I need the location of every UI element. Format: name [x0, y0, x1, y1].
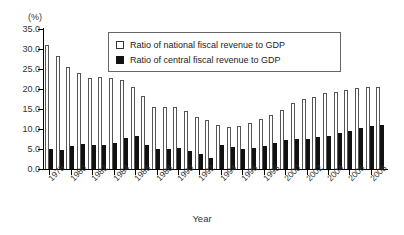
y-axis-unit-label: (%) [28, 12, 42, 22]
bar-central-1988 [156, 149, 160, 169]
bar-central-1994 [220, 145, 224, 169]
bar-central-1990 [177, 148, 181, 169]
hollow-square-icon [116, 41, 124, 49]
bar-group-1982 [88, 29, 99, 169]
bar-central-2000 [284, 140, 288, 169]
legend-item-national: Ratio of national fiscal revenue to GDP [116, 37, 334, 52]
bar-central-1982 [92, 145, 96, 169]
bar-central-2004 [327, 136, 331, 169]
y-axis-tick-mark [38, 109, 43, 110]
bar-central-1978 [49, 149, 53, 169]
y-axis-tick-mark [38, 149, 43, 150]
bar-central-1980 [70, 146, 74, 169]
filled-square-icon [116, 56, 124, 64]
bar-group-2006 [344, 29, 355, 169]
bar-group-2007 [355, 29, 366, 169]
bar-group-2009 [376, 29, 387, 169]
x-axis-ticks: 1978198019821984198619881990199219941996… [44, 170, 387, 176]
bar-group-2008 [366, 29, 377, 169]
bar-central-1996 [241, 149, 245, 169]
bar-central-2008 [370, 126, 374, 169]
y-axis-tick-mark [38, 49, 43, 50]
legend-label-national: Ratio of national fiscal revenue to GDP [130, 40, 285, 50]
bar-central-2006 [348, 131, 352, 169]
y-axis-tick-mark [38, 89, 43, 90]
bar-central-2002 [306, 139, 310, 169]
bar-central-1986 [135, 136, 139, 169]
chart-figure: (%) 35.030.025.020.015.010.05.00.0 19781… [0, 0, 404, 235]
bar-group-1981 [77, 29, 88, 169]
bar-group-1979 [56, 29, 67, 169]
bar-central-1998 [263, 146, 267, 169]
chart-legend: Ratio of national fiscal revenue to GDP … [108, 32, 341, 72]
legend-label-central: Ratio of central fiscal revenue to GDP [130, 55, 281, 65]
legend-item-central: Ratio of central fiscal revenue to GDP [116, 52, 334, 67]
x-axis-title: Year [0, 213, 404, 224]
y-axis-tick-mark [38, 29, 43, 30]
y-axis-tick-mark [38, 169, 43, 170]
y-axis-tick-mark [38, 69, 43, 70]
bar-central-1984 [113, 143, 117, 169]
bar-group-1978 [45, 29, 56, 169]
bar-central-1992 [199, 154, 203, 169]
bar-group-1980 [66, 29, 77, 169]
y-axis-tick-mark [38, 129, 43, 130]
